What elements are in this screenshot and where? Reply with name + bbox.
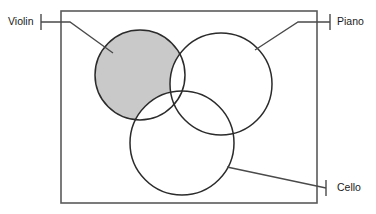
set-label-piano: Piano [337, 15, 364, 27]
venn-diagram-container: Violin Piano Cello [0, 0, 376, 214]
shaded-region-violin-only [0, 0, 376, 214]
venn-diagram-canvas: Violin Piano Cello [0, 0, 376, 214]
set-label-cello: Cello [337, 181, 361, 193]
set-label-violin: Violin [8, 15, 34, 27]
